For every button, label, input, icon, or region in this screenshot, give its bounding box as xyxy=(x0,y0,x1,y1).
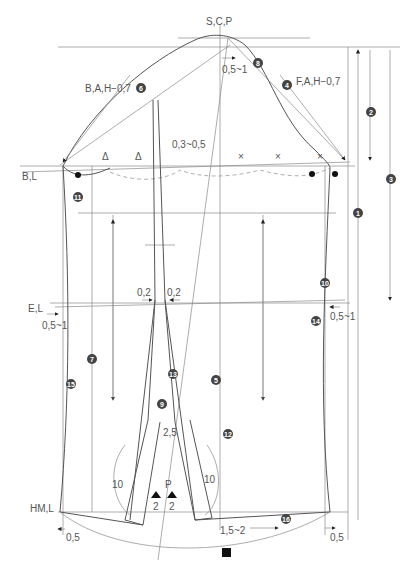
label-hml: HM,L xyxy=(30,503,54,514)
label-el-right: 0,5~1 xyxy=(330,311,356,322)
svg-text:15: 15 xyxy=(67,381,75,388)
svg-text:12: 12 xyxy=(224,431,232,438)
dot-mark xyxy=(309,171,315,177)
triangle-mark: Δ xyxy=(135,151,142,162)
square-mark-icon xyxy=(222,548,231,557)
label-scp: S,C,P xyxy=(206,16,232,27)
svg-text:6: 6 xyxy=(139,85,143,92)
sleeve-pattern-diagram: S,C,P B,A,H−0,7 F,A,H−0,7 B,L E,L HM,L 0… xyxy=(0,0,415,579)
svg-text:16: 16 xyxy=(282,516,290,523)
label-slit-right: 10 xyxy=(204,474,216,485)
svg-text:3: 3 xyxy=(389,176,393,183)
cross-mark: × xyxy=(317,151,323,162)
dot-mark xyxy=(75,172,81,178)
label-bah: B,A,H−0,7 xyxy=(85,83,131,94)
label-hem-right: 0,5 xyxy=(330,532,344,543)
label-p: P xyxy=(165,479,172,490)
label-hem-shift: 1,5~2 xyxy=(220,525,246,536)
svg-text:1: 1 xyxy=(356,210,360,217)
svg-text:11: 11 xyxy=(74,194,82,201)
measurement-arrows xyxy=(47,50,390,529)
svg-text:10: 10 xyxy=(321,280,329,287)
svg-text:4: 4 xyxy=(285,82,289,89)
label-el-left: 0,5~1 xyxy=(42,320,68,331)
label-slit-left: 10 xyxy=(112,479,124,490)
label-fah: F,A,H−0,7 xyxy=(296,76,341,87)
label-dart-right: 0,2 xyxy=(167,287,181,298)
svg-text:2: 2 xyxy=(369,109,373,116)
numbered-markers: 1 2 3 4 5 6 7 8 9 10 11 12 13 14 15 16 xyxy=(66,58,396,524)
right-seam xyxy=(323,168,330,512)
svg-text:8: 8 xyxy=(256,60,260,67)
svg-text:14: 14 xyxy=(312,318,320,325)
triangle-notch-icon xyxy=(167,491,177,498)
left-seam xyxy=(60,166,68,512)
svg-text:7: 7 xyxy=(90,356,94,363)
label-bl: B,L xyxy=(22,171,37,182)
svg-text:5: 5 xyxy=(214,377,218,384)
label-dart-left: 0,2 xyxy=(137,287,151,298)
svg-text:9: 9 xyxy=(160,401,164,408)
label-ease-03: 0,3~0,5 xyxy=(172,139,206,150)
dot-mark xyxy=(332,171,338,177)
label-hem-left: 0,5 xyxy=(66,532,80,543)
label-p-left: 2 xyxy=(153,501,159,512)
cross-mark: × xyxy=(238,151,244,162)
label-el: E,L xyxy=(28,303,43,314)
cross-mark: × xyxy=(275,151,281,162)
label-ease-top: 0,5~1 xyxy=(222,64,248,75)
triangle-notch-icon xyxy=(151,491,161,498)
triangle-mark: Δ xyxy=(102,151,109,162)
label-p-right: 2 xyxy=(169,501,175,512)
label-slit-top: 2,5 xyxy=(163,427,177,438)
svg-text:13: 13 xyxy=(169,371,177,378)
